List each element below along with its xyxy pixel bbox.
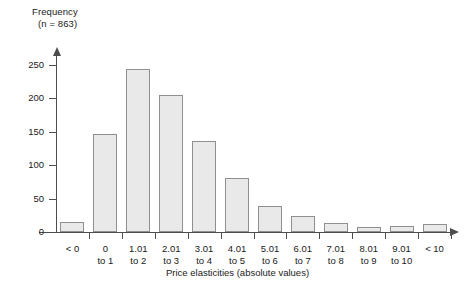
x-axis-tick-label: 4.01to 5 (221, 243, 254, 266)
x-axis-tick-label-line: 1.01 (122, 243, 155, 255)
x-axis-tick-label-line: to 7 (286, 255, 319, 267)
x-axis-tick-label: < 10 (418, 243, 451, 255)
x-axis-tick-label-line: to 6 (254, 255, 287, 267)
y-axis-title-line1: Frequency (32, 6, 78, 17)
y-axis-tick-label-text: 100 (18, 160, 44, 170)
bar (126, 69, 150, 232)
bar (324, 223, 348, 232)
x-axis-tick (89, 233, 90, 239)
y-axis-tick-label-text: 150 (18, 127, 44, 137)
x-axis-tick-label-line: to 4 (188, 255, 221, 267)
x-axis-tick (155, 233, 156, 239)
x-axis-line (39, 232, 451, 233)
y-axis-title: Frequency (n = 863) (32, 6, 78, 30)
y-axis-tick-label: 200 (14, 93, 44, 103)
x-axis-tick-label-line: 9.01 (385, 243, 418, 255)
x-axis-tick-label-line: 5.01 (254, 243, 287, 255)
x-axis-tick (418, 233, 419, 239)
histogram-chart: Frequency (n = 863) 050100150200250 < 00… (0, 0, 475, 287)
x-axis-tick-label-line: 3.01 (188, 243, 221, 255)
y-axis-title-line2: (n = 863) (32, 18, 78, 30)
x-axis-tick-label: 7.01to 8 (319, 243, 352, 266)
x-axis-tick-label-line: < 0 (56, 243, 89, 255)
x-axis-tick-label-line: 4.01 (221, 243, 254, 255)
x-axis-tick-label-line: to 2 (122, 255, 155, 267)
y-axis-tick-label-text: 50 (18, 194, 44, 204)
bar-series (56, 55, 451, 232)
x-axis-tick-label: 3.01to 4 (188, 243, 221, 266)
y-axis-tick-label-text: 200 (18, 93, 44, 103)
y-axis-tick-label: 250 (14, 60, 44, 70)
y-axis-tick-label-text: 250 (18, 60, 44, 70)
y-axis-tick-label: 100 (14, 160, 44, 170)
bar (225, 178, 249, 232)
x-axis-tick (451, 233, 452, 239)
x-axis-tick-label-line: to 10 (385, 255, 418, 267)
x-axis-tick (188, 233, 189, 239)
bar (60, 222, 84, 232)
bar (390, 226, 414, 232)
x-axis-tick-label: 1.01to 2 (122, 243, 155, 266)
x-axis-tick-label: 5.01to 6 (254, 243, 287, 266)
x-axis-tick-label: 0to 1 (89, 243, 122, 266)
bar (192, 141, 216, 233)
x-axis-title: Price elasticities (absolute values) (0, 267, 475, 278)
x-axis-tick (319, 233, 320, 239)
x-axis-tick-label-line: 6.01 (286, 243, 319, 255)
x-axis-tick-label: < 0 (56, 243, 89, 255)
x-axis-tick-label: 2.01to 3 (155, 243, 188, 266)
x-axis-tick-label-line: < 10 (418, 243, 451, 255)
x-axis-tick (286, 233, 287, 239)
bar (423, 224, 447, 232)
x-axis-tick-label-line: to 8 (319, 255, 352, 267)
y-axis-tick-label-text: 0 (18, 227, 44, 237)
x-axis-tick-label-line: 8.01 (352, 243, 385, 255)
y-axis-tick-label: 150 (14, 127, 44, 137)
x-axis-tick (221, 233, 222, 239)
x-axis-tick-label-line: to 5 (221, 255, 254, 267)
bar (93, 134, 117, 232)
x-axis-tick (385, 233, 386, 239)
y-axis-tick-label: 0 (14, 227, 44, 237)
x-axis-tick-label-line: 7.01 (319, 243, 352, 255)
x-axis-tick-label-line: to 9 (352, 255, 385, 267)
x-axis-tick (352, 233, 353, 239)
x-axis-tick-label-line: 2.01 (155, 243, 188, 255)
x-axis-tick-label: 9.01to 10 (385, 243, 418, 266)
bar (258, 206, 282, 232)
y-axis-tick (49, 232, 57, 233)
x-axis-tick (122, 233, 123, 239)
x-axis-tick-label-line: to 3 (155, 255, 188, 267)
x-axis-tick-label-line: to 1 (89, 255, 122, 267)
x-axis-tick (254, 233, 255, 239)
x-axis-tick-label: 8.01to 9 (352, 243, 385, 266)
bar (357, 227, 381, 232)
bar (159, 95, 183, 232)
x-axis-tick-label-line: 0 (89, 243, 122, 255)
x-axis-tick-label: 6.01to 7 (286, 243, 319, 266)
bar (291, 216, 315, 232)
y-axis-tick-label: 50 (14, 194, 44, 204)
